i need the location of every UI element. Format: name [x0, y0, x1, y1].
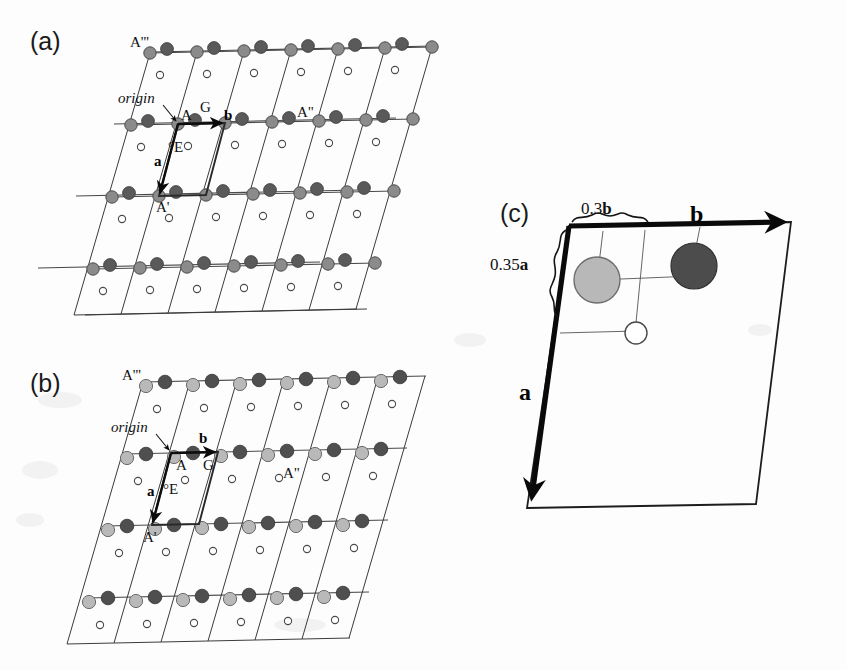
atom-g-offset: [283, 112, 296, 125]
atom-e-open: [96, 621, 103, 628]
atom-e-open: [134, 477, 141, 484]
atom-a-node: [327, 375, 340, 388]
atom-g-offset: [245, 256, 258, 269]
atom-a-node: [82, 595, 95, 608]
atom-e-open: [325, 139, 332, 146]
atom-a-node: [275, 259, 287, 271]
atom-a-node: [238, 45, 250, 57]
atom-g-offset: [104, 259, 117, 272]
atom-g-offset: [217, 185, 230, 198]
panel-c-frac-b-label: 0.3b: [581, 199, 612, 218]
atom-g-offset: [123, 187, 136, 200]
atom-e-open: [115, 549, 122, 556]
atom-a-node: [322, 258, 334, 270]
atom-a-node: [285, 44, 297, 56]
atom-e-open: [287, 283, 294, 290]
panel-c-atom-light: [574, 257, 620, 303]
panel-c-vector-b-label: b: [690, 201, 703, 227]
atom-g-offset: [336, 586, 350, 600]
panel-b-vector-b-arrow: [171, 452, 215, 453]
atom-e-open: [240, 284, 247, 291]
atom-a-node: [313, 115, 325, 127]
atom-e-open: [369, 472, 376, 479]
atom-g-offset: [161, 43, 174, 56]
atom-g-offset: [139, 447, 153, 461]
atom-e-open: [137, 143, 144, 150]
panel-b-site-g-label: G: [203, 457, 214, 473]
atom-e-open: [334, 282, 341, 289]
panel-a-lattice-lines: [74, 47, 433, 315]
crystal-structure-figure: (a): [0, 0, 847, 670]
atom-a-node: [223, 592, 236, 605]
atom-g-offset: [374, 442, 388, 456]
atom-a-node: [280, 376, 293, 389]
atom-e-open: [353, 210, 360, 217]
atom-e-open: [341, 401, 348, 408]
atom-g-offset: [120, 519, 134, 533]
atom-g-offset: [308, 515, 322, 529]
atom-a-node: [270, 591, 283, 604]
atom-a-node: [336, 518, 349, 531]
atom-a-node: [101, 523, 114, 536]
atom-e-open: [284, 617, 291, 624]
atom-g-offset: [261, 516, 275, 530]
atom-g-offset: [214, 517, 228, 531]
panel-c: (c): [490, 199, 791, 508]
atom-a-node: [134, 262, 146, 274]
atom-e-open: [118, 215, 125, 222]
atom-g-offset: [358, 182, 371, 195]
atom-a-node: [186, 378, 199, 391]
panel-a-tag: (a): [30, 27, 61, 55]
panel-b-origin-leader: [156, 434, 169, 450]
panel-c-vector-a-arrow: [532, 226, 569, 496]
atom-a-node: [426, 41, 438, 53]
panel-b-site-a-double-prime-label: A": [283, 465, 300, 481]
atom-g-offset: [252, 373, 266, 387]
panel-a-grid: [38, 46, 434, 315]
atom-g-offset: [396, 38, 409, 51]
atom-e-open: [372, 138, 379, 145]
atom-e-open: [200, 404, 207, 411]
atom-e-open: [278, 140, 285, 147]
panel-b-site-a-label: A: [176, 457, 187, 473]
atom-a-node: [125, 119, 137, 131]
atom-g-offset: [208, 42, 221, 55]
atom-e-open: [181, 476, 188, 483]
atom-g-offset: [280, 444, 294, 458]
atom-g-offset: [292, 255, 305, 268]
atom-a-node: [369, 257, 381, 269]
atom-e-open: [391, 66, 398, 73]
atom-e-open: [184, 142, 191, 149]
atom-g-offset: [355, 514, 369, 528]
atom-a-node: [176, 593, 189, 606]
atom-g-offset: [346, 371, 360, 385]
atom-e-open: [297, 68, 304, 75]
atom-g-offset: [393, 370, 407, 384]
panel-a-origin-label: origin: [118, 90, 155, 106]
panel-a-site-g-label: G: [200, 99, 211, 115]
atom-g-offset: [158, 375, 172, 389]
atom-e-open: [190, 619, 197, 626]
atom-a-node: [242, 520, 255, 533]
atom-a-node: [341, 186, 353, 198]
panel-b-origin-label: origin: [111, 419, 148, 435]
atom-a-node: [379, 42, 391, 54]
atom-g-offset: [339, 254, 352, 267]
panel-a-atoms: [87, 38, 438, 295]
atom-g-offset: [289, 587, 303, 601]
atom-e-open: [153, 405, 160, 412]
atom-g-offset: [299, 372, 313, 386]
panel-a-site-a-prime-label: A': [156, 199, 170, 215]
atom-a-node: [332, 43, 344, 55]
atom-e-open: [143, 620, 150, 627]
panel-b-tag: (b): [30, 369, 61, 397]
atom-a-node: [374, 374, 387, 387]
panel-c-tag: (c): [500, 199, 529, 227]
atom-g-offset: [349, 39, 362, 52]
atom-a-node: [289, 519, 302, 532]
atom-g-offset: [195, 589, 209, 603]
panel-b-site-a-prime-label: A': [143, 529, 157, 545]
panel-b: (b): [30, 367, 426, 644]
atom-e-open: [247, 403, 254, 410]
atom-a-node: [87, 263, 99, 275]
